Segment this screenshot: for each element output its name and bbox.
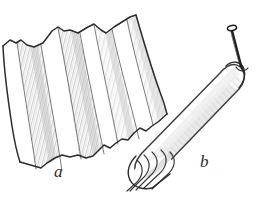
figure-label-a: a [54,163,63,180]
nail-head-icon [227,25,237,32]
nail-shaft [232,31,241,66]
figure-drawing-canvas [0,0,257,200]
figure-illustration: a b [0,0,257,200]
nail-group [227,25,248,71]
figure-label-b: b [200,153,209,170]
pleated-sheet-group [3,15,168,172]
